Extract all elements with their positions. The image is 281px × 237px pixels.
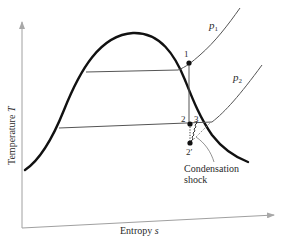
metastable-curve [196,137,214,162]
label-state-2prime: 2′ [186,147,193,157]
label-state-1: 1 [184,49,189,59]
annotation-shock: shock [184,174,207,185]
state-point-2prime [187,140,192,145]
label-p2: p2 [232,71,243,85]
label-state-2: 2 [181,114,186,124]
p1-isobar [178,8,240,70]
annotation-condensation: Condensation [184,163,239,174]
state-point-2 [187,121,192,126]
saturation-dome [25,33,248,170]
state-point-1 [186,60,191,65]
ts-diagram: 1 2 3 2′ p1 p2 Condensation shock Entrop… [0,0,281,237]
x-axis-label: Entropy s [120,225,159,236]
label-p1: p1 [208,19,219,33]
label-state-3: 3 [194,114,199,124]
y-axis-label: Temperature T [6,105,17,165]
p1-two-phase-line [86,70,178,72]
